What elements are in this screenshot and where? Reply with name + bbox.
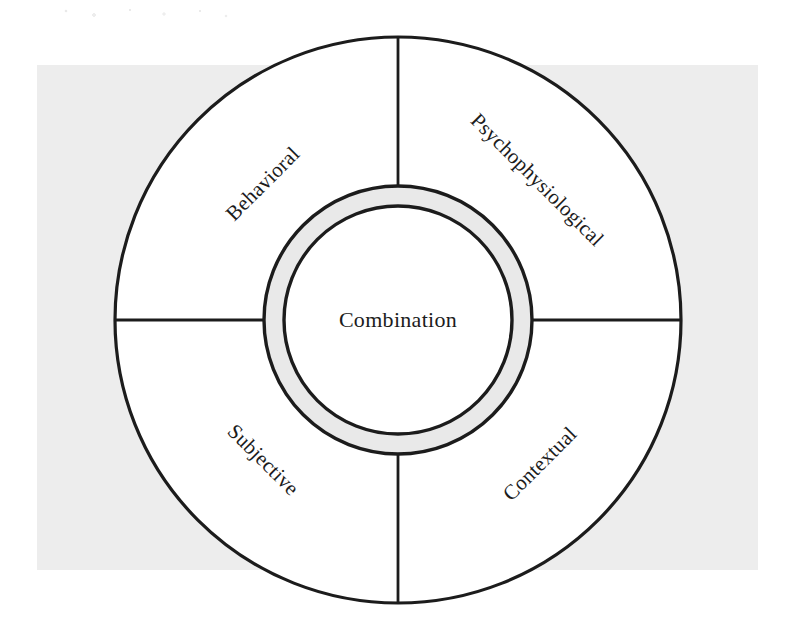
circular-model-diagram: Combination Behavioral Psychophysiologic…: [0, 0, 789, 634]
center-label-combination: Combination: [339, 307, 457, 333]
